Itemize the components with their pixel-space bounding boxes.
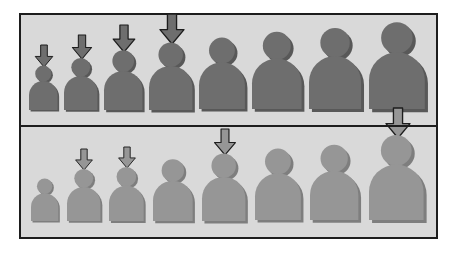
figure-slot <box>153 126 195 237</box>
person-icon <box>67 167 102 223</box>
figure-slot <box>29 15 59 126</box>
person-icon <box>109 165 146 223</box>
figure-slot <box>67 126 102 237</box>
figure-slot <box>255 126 303 237</box>
figure-slot <box>202 126 248 237</box>
chart-frame <box>19 13 438 239</box>
figure-row-bottom <box>21 126 436 237</box>
person-icon <box>29 64 59 112</box>
figure-slot <box>31 126 60 237</box>
panel-bottom <box>21 126 436 237</box>
panel-divider <box>21 125 436 127</box>
figure-slot <box>369 126 427 237</box>
panel-top <box>21 15 436 126</box>
person-icon <box>252 29 304 112</box>
person-icon <box>369 19 428 112</box>
person-icon <box>369 132 427 223</box>
person-icon <box>255 146 303 223</box>
figure-slot <box>309 15 364 126</box>
figure-slot <box>149 15 195 126</box>
figure-canvas <box>0 0 457 254</box>
person-icon <box>64 56 99 112</box>
figure-row-top <box>21 15 436 126</box>
figure-slot <box>64 15 99 126</box>
person-icon <box>309 25 364 112</box>
figure-slot <box>310 126 361 237</box>
figure-slot <box>109 126 146 237</box>
figure-slot <box>252 15 304 126</box>
person-icon <box>31 177 60 223</box>
person-icon <box>310 142 361 223</box>
person-icon <box>153 157 195 223</box>
person-icon <box>149 40 195 112</box>
figure-slot <box>104 15 145 126</box>
person-icon <box>104 48 145 112</box>
person-icon <box>202 151 248 223</box>
figure-slot <box>199 15 247 126</box>
person-icon <box>199 35 247 112</box>
